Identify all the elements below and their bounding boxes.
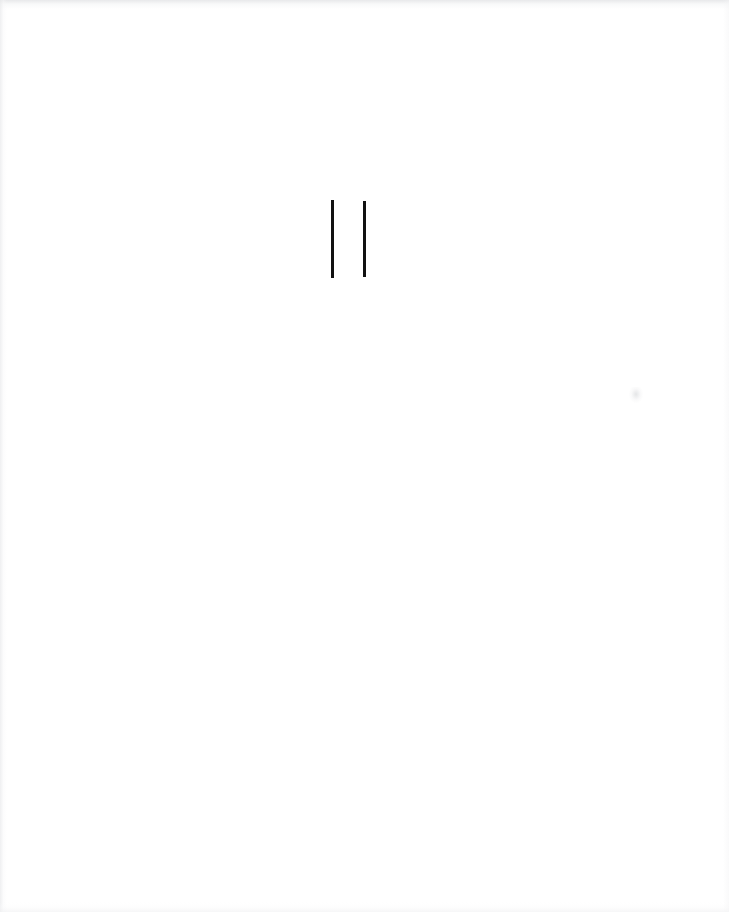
scanned-page [0, 0, 729, 912]
scan-edge-bottom-artifact [0, 902, 729, 912]
vertical-stroke-left [331, 200, 334, 278]
scan-edge-right-artifact [723, 0, 729, 912]
vertical-stroke-right [363, 201, 366, 277]
dust-speck-artifact [629, 387, 643, 403]
scan-edge-left-artifact [0, 0, 7, 912]
scan-edge-top-artifact [0, 0, 729, 9]
